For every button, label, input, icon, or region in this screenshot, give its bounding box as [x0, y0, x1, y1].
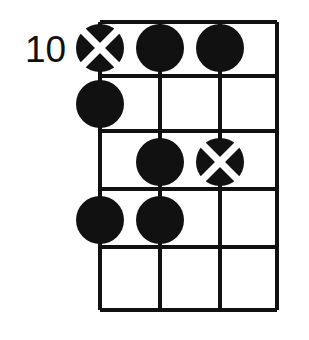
marker-circle [76, 80, 124, 128]
root-marker-icon [196, 138, 244, 186]
finger-dot-icon [136, 138, 184, 186]
root-marker-icon [76, 24, 124, 72]
marker-circle [76, 196, 124, 244]
marker-circle [196, 24, 244, 72]
finger-dot-icon [196, 24, 244, 72]
finger-dot-icon [136, 196, 184, 244]
chord-diagram: 10 [0, 0, 309, 340]
finger-dot-icon [76, 196, 124, 244]
finger-dot-icon [136, 24, 184, 72]
marker-circle [136, 196, 184, 244]
marker-circle [136, 138, 184, 186]
marker-circle [136, 24, 184, 72]
fret-position-number: 10 [25, 29, 66, 70]
finger-dot-icon [76, 80, 124, 128]
